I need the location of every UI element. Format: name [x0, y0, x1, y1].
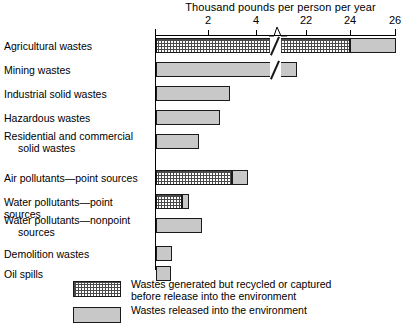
category-label: Air pollutants—point sources — [4, 172, 152, 184]
legend-swatch-recycled-icon — [73, 281, 121, 297]
bar-segment-recycled — [156, 194, 182, 209]
bar-break-icon — [270, 37, 281, 54]
x-tick-label-26: 26 — [385, 14, 405, 26]
bar-segment-recycled — [156, 170, 232, 185]
x-axis-tick-2 — [208, 30, 209, 36]
x-tick-label-4: 4 — [246, 14, 266, 26]
category-label: Residential and commercialsolid wastes — [4, 130, 152, 154]
waste-generation-bar-chart: Thousand pounds per person per year 2 4 … — [0, 0, 406, 327]
category-label: Hazardous wastes — [4, 112, 152, 124]
bar-segment-released — [156, 86, 230, 101]
bar-segment-released — [182, 194, 189, 209]
bar-break-icon — [270, 61, 281, 78]
x-axis-tick-22 — [306, 30, 307, 36]
category-label: Agricultural wastes — [4, 40, 152, 52]
bar-segment-released — [156, 134, 199, 149]
bar-segment-released — [232, 170, 248, 185]
legend-item-recycled: Wastes generated but recycled or capture… — [73, 279, 403, 301]
bar-segment-released — [156, 110, 220, 125]
bar-segment-released — [156, 246, 172, 261]
legend-label-released: Wastes released into the environment — [131, 304, 307, 316]
x-tick-label-2: 2 — [198, 14, 218, 26]
legend-label-recycled: Wastes generated but recycled or capture… — [131, 278, 331, 302]
legend-item-released: Wastes released into the environment — [73, 305, 403, 327]
bar-segment-recycled — [156, 38, 350, 53]
category-label: Water pollutants—nonpointsources — [4, 214, 152, 238]
bar-segment-released — [156, 218, 202, 233]
legend-swatch-released-icon — [73, 307, 121, 323]
x-axis-tick-4 — [256, 30, 257, 36]
chart-legend: Wastes generated but recycled or capture… — [73, 279, 403, 327]
category-label: Industrial solid wastes — [4, 88, 152, 100]
bar-segment-released — [350, 38, 396, 53]
x-axis-tick-24 — [350, 30, 351, 36]
x-tick-label-22: 22 — [296, 14, 316, 26]
x-axis-tick-26 — [395, 30, 396, 36]
x-axis-title: Thousand pounds per person per year — [155, 1, 406, 13]
category-label: Demolition wastes — [4, 248, 152, 260]
category-label: Mining wastes — [4, 64, 152, 76]
x-tick-label-24: 24 — [340, 14, 360, 26]
